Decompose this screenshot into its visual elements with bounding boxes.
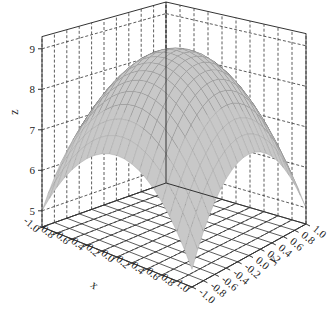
z-tick-label: 8 [30,83,36,95]
x-axis-label: x [88,278,102,293]
z-axis-label: z [7,109,21,114]
surface-plot-canvas: 56789-1.0-0.8-0.6-0.4-0.20.00.20.40.60.8… [0,0,334,314]
z-tick-label: 6 [30,164,36,176]
z-tick-label: 7 [30,124,36,136]
z-tick-label: 9 [30,43,36,55]
surface-mesh [42,48,306,269]
surface-plot-figure: 56789-1.0-0.8-0.6-0.4-0.20.00.20.40.60.8… [0,0,334,314]
